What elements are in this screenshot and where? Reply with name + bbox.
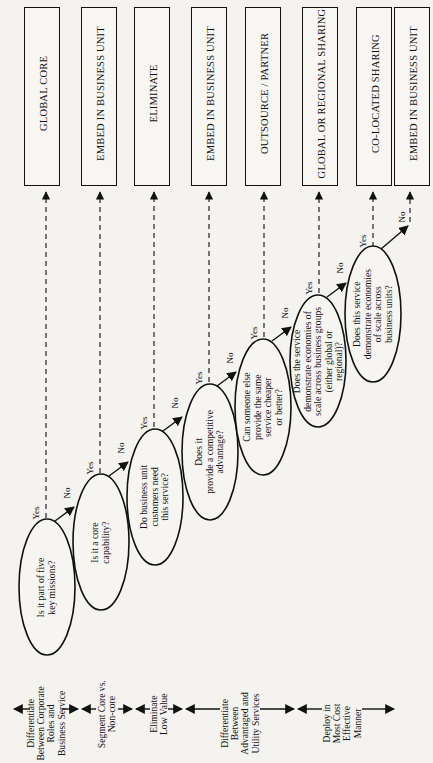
outcome-label: ELIMINATE xyxy=(148,4,159,184)
question-line: Is it part of five xyxy=(36,528,47,648)
phase-line: Low Value xyxy=(159,674,169,754)
outcome-label: EMBED IN BUSINESS UNIT xyxy=(95,4,106,184)
question-3: Do business unit customers need this ser… xyxy=(139,437,171,557)
no-label-3: No xyxy=(170,391,180,415)
no-label-7: No xyxy=(397,205,407,229)
phase-label-3: Eliminate Low Value xyxy=(149,674,169,754)
yes-label-6: Yes xyxy=(304,276,314,300)
phase-line: Utility Services xyxy=(250,683,260,763)
yes-label-2: Yes xyxy=(85,456,95,480)
phase-line: Business Service xyxy=(56,683,66,763)
no-label-1: No xyxy=(62,481,72,505)
outcome-label: CO-LOCATED SHARING xyxy=(370,4,381,184)
yes-label-4: Yes xyxy=(194,366,204,390)
outcome-label: GLOBAL CORE xyxy=(38,4,49,184)
phase-line: Non-core xyxy=(107,674,117,754)
phase-line: Manner xyxy=(352,683,362,763)
question-line: key missions? xyxy=(47,528,58,648)
question-line: advantage? xyxy=(215,392,226,512)
outcome-label: GLOBAL OR REGIONAL SHARING xyxy=(316,4,327,184)
outcome-box-co-located: CO-LOCATED SHARING xyxy=(356,7,392,186)
question-1: Is it part of five key missions? xyxy=(36,528,57,648)
outcome-label: EMBED IN BUSINESS UNIT xyxy=(408,4,419,184)
no-label-6: No xyxy=(335,256,345,280)
question-line: capability? xyxy=(101,483,112,603)
outcome-box-outsource: OUTSOURCE / PARTNER xyxy=(245,7,281,186)
phase-label-2: Segment Core vs. Non-core xyxy=(97,674,117,754)
yes-label-7: Yes xyxy=(358,229,368,253)
no-label-2: No xyxy=(116,436,126,460)
outcome-label: EMBED IN BUSINESS UNIT xyxy=(205,4,216,184)
question-6: Does the service demonstrate economies o… xyxy=(292,296,345,426)
no-label-5: No xyxy=(280,301,290,325)
question-5: Can someone else provide the same servic… xyxy=(242,347,284,467)
question-line: Is it a core xyxy=(90,483,101,603)
outcome-box-eliminate: ELIMINATE xyxy=(134,7,170,186)
question-line: business units? xyxy=(384,254,395,374)
question-line: Does it xyxy=(194,392,205,512)
question-line: regional)? xyxy=(334,296,345,426)
outcome-box-embed-2: EMBED IN BUSINESS UNIT xyxy=(191,7,227,186)
yes-label-3: Yes xyxy=(139,411,149,435)
phase-label-5: Deploy in Most Cost Effective Manner xyxy=(322,683,363,763)
yes-label-5: Yes xyxy=(249,321,259,345)
question-line: or better? xyxy=(274,347,285,467)
question-line: Does this service xyxy=(352,254,363,374)
question-line: Can someone else xyxy=(242,347,253,467)
question-2: Is it a core capability? xyxy=(90,483,111,603)
outcome-box-embed-3: EMBED IN BUSINESS UNIT xyxy=(394,7,430,186)
outcome-box-global-core: GLOBAL CORE xyxy=(24,7,60,186)
outcome-box-embed-1: EMBED IN BUSINESS UNIT xyxy=(81,7,117,186)
outcome-label: OUTSOURCE / PARTNER xyxy=(259,4,270,184)
phase-label-4: Differentiate Between Advantaged and Uti… xyxy=(220,683,261,763)
outcome-box-global-regional: GLOBAL OR REGIONAL SHARING xyxy=(302,7,338,186)
no-label-4: No xyxy=(225,346,235,370)
question-line: this service? xyxy=(160,437,171,557)
question-line: Does the service xyxy=(292,296,303,426)
question-line: Do business unit xyxy=(139,437,150,557)
yes-label-1: Yes xyxy=(31,501,41,525)
phase-label-1: Differentiate Between Corporate Roles an… xyxy=(26,683,67,763)
question-4: Does it provide a competitive advantage? xyxy=(194,392,226,512)
question-7: Does this service demonstrate economies … xyxy=(352,254,394,374)
